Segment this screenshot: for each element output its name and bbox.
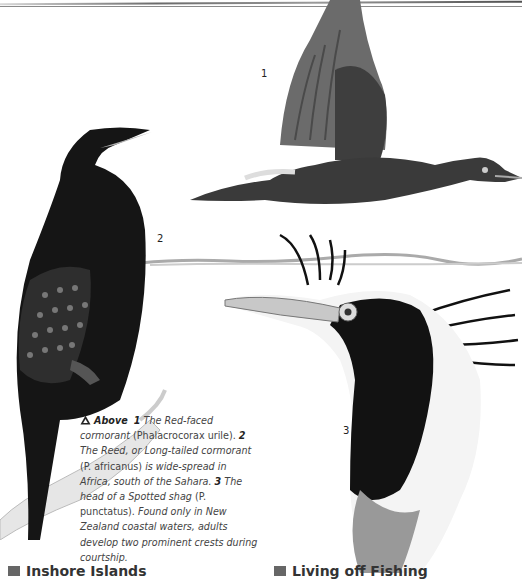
figure-caption: Above 1 The Red-faced cormorant (Phalacr… — [80, 413, 260, 565]
section-heading-right: Living off Fishing — [274, 563, 428, 579]
up-triangle-icon — [80, 415, 91, 425]
heading-marker-icon — [8, 566, 20, 576]
spotted-shag-head-illustration — [220, 230, 522, 573]
figure-label-2: 2 — [157, 233, 163, 244]
figure-label-1: 1 — [261, 68, 267, 79]
section-heading-left: Inshore Islands — [8, 563, 146, 579]
flying-cormorant-illustration — [185, 0, 522, 210]
heading-marker-icon — [274, 566, 286, 576]
figure-label-3: 3 — [343, 425, 349, 436]
caption-lead: Above — [94, 415, 128, 426]
